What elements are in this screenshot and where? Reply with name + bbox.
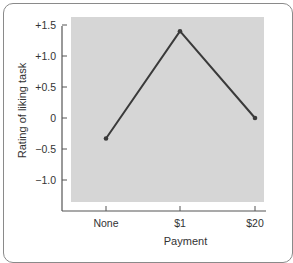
x-tick-label: None: [93, 217, 118, 229]
y-tick-label: +1.0: [35, 50, 56, 62]
plot-area: [71, 17, 264, 202]
x-axis-title: Payment: [164, 235, 207, 247]
y-tick-label: 0: [50, 112, 56, 124]
y-tick-label: +1.5: [35, 19, 56, 31]
data-point: [253, 116, 258, 121]
y-tick-label: −1.0: [35, 174, 56, 186]
data-point: [104, 136, 109, 141]
data-point: [178, 29, 183, 34]
x-axis: None$1$20: [62, 206, 266, 229]
y-tick-label: +0.5: [35, 81, 56, 93]
x-tick-label: $20: [246, 217, 264, 229]
y-axis: +1.5+1.0+0.50−0.5−1.0: [35, 19, 67, 212]
y-tick-label: −0.5: [35, 143, 56, 155]
x-tick-label: $1: [174, 217, 186, 229]
y-axis-title: Rating of liking task: [16, 62, 28, 158]
